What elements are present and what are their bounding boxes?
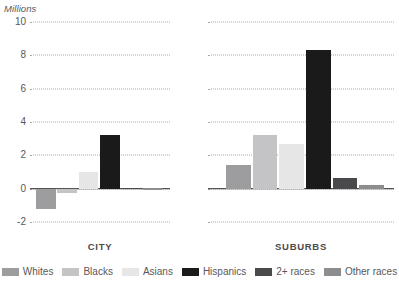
legend-item-hispanics[interactable]: Hispanics <box>182 267 246 277</box>
bar-city-blacks <box>57 189 77 193</box>
bar-city-other-races <box>143 188 163 189</box>
bar-city-hispanics <box>100 135 120 188</box>
panel-title-city: CITY <box>30 241 170 252</box>
legend-item-blacks[interactable]: Blacks <box>62 267 112 277</box>
bar-suburbs-asians <box>279 144 304 189</box>
legend-label: Hispanics <box>203 267 246 277</box>
gridline-left-8 <box>30 55 170 56</box>
legend-item-2-races[interactable]: 2+ races <box>255 267 315 277</box>
population-change-bar-chart: Millions -20246810 CITY SUBURBS WhitesBl… <box>0 0 399 285</box>
y-axis-tick-label: 2 <box>0 150 26 160</box>
gridline-left-6 <box>30 88 170 89</box>
legend-label: Whites <box>23 267 54 277</box>
y-axis-tick-label: 10 <box>0 17 26 27</box>
bar-city-whites <box>36 189 56 209</box>
bar-city-asians <box>79 172 99 189</box>
legend-item-whites[interactable]: Whites <box>2 267 54 277</box>
legend-swatch-icon <box>182 268 199 276</box>
bar-city-2-races <box>121 188 141 189</box>
bar-suburbs-whites <box>226 165 251 189</box>
gridline-right-10 <box>208 22 394 23</box>
y-axis-tick-label: -2 <box>0 217 26 227</box>
y-axis-unit-label: Millions <box>4 3 36 14</box>
panel-title-suburbs: SUBURBS <box>208 241 394 252</box>
gridline-left-4 <box>30 122 170 123</box>
y-axis-tick-label: 8 <box>0 50 26 60</box>
legend-label: 2+ races <box>276 267 315 277</box>
plot-area: -20246810 <box>0 18 399 236</box>
legend-swatch-icon <box>62 268 79 276</box>
legend-label: Other races <box>345 267 397 277</box>
gridline-right-6 <box>208 88 394 89</box>
legend-swatch-icon <box>2 268 19 276</box>
bar-suburbs-other-races <box>359 185 384 188</box>
legend-swatch-icon <box>255 268 272 276</box>
y-axis-tick-label: 0 <box>0 184 26 194</box>
legend-swatch-icon <box>122 268 139 276</box>
bar-suburbs-2-races <box>333 178 358 189</box>
legend-item-other-races[interactable]: Other races <box>324 267 397 277</box>
gridline-right--2 <box>208 222 394 223</box>
bar-suburbs-hispanics <box>306 50 331 188</box>
legend-label: Blacks <box>83 267 112 277</box>
y-axis-tick-label: 6 <box>0 84 26 94</box>
legend-swatch-icon <box>324 268 341 276</box>
gridline-right-8 <box>208 55 394 56</box>
legend-item-asians[interactable]: Asians <box>122 267 173 277</box>
y-axis-tick-label: 4 <box>0 117 26 127</box>
legend-label: Asians <box>143 267 173 277</box>
gridline-left-10 <box>30 22 170 23</box>
gridline-left--2 <box>30 222 170 223</box>
gridline-right-4 <box>208 122 394 123</box>
chart-legend: WhitesBlacksAsiansHispanics2+ racesOther… <box>0 263 399 281</box>
bar-suburbs-blacks <box>253 135 278 188</box>
